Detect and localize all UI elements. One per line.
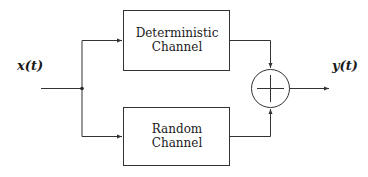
- random-line1: Random: [124, 122, 230, 136]
- deterministic-line1: Deterministic: [124, 26, 230, 40]
- random-channel-label: Random Channel: [124, 122, 230, 150]
- output-signal-label: y(t): [332, 58, 358, 73]
- deterministic-line2: Channel: [124, 40, 230, 54]
- deterministic-channel-label: Deterministic Channel: [124, 26, 230, 54]
- arrow-random-to-summer: [230, 109, 271, 137]
- arrow-deterministic-to-summer: [230, 41, 271, 69]
- random-line2: Channel: [124, 136, 230, 150]
- input-signal-label: x(t): [17, 58, 43, 73]
